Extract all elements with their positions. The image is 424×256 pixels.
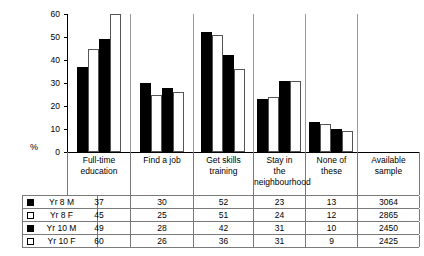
table-cell: 37 bbox=[68, 196, 131, 208]
table-cell: 23 bbox=[254, 196, 306, 208]
table-cell: 42 bbox=[194, 222, 254, 234]
column-header: Stay intheneighbourhood bbox=[254, 152, 306, 195]
group-separator bbox=[193, 14, 194, 152]
table-cell: 2425 bbox=[358, 235, 420, 247]
legend-swatch-filled-icon bbox=[27, 225, 34, 232]
bars-layer bbox=[68, 14, 419, 152]
column-header-line: the bbox=[254, 166, 305, 177]
column-header-line: sample bbox=[358, 166, 419, 177]
y-tick-label: 0 bbox=[34, 148, 60, 157]
table-cell: 9 bbox=[306, 235, 358, 247]
bar bbox=[257, 99, 268, 152]
bar bbox=[223, 55, 234, 152]
table-cell: 2865 bbox=[358, 209, 420, 221]
column-header-line: training bbox=[194, 166, 253, 177]
table-cell: 24 bbox=[254, 209, 306, 221]
bar bbox=[77, 67, 88, 152]
group-separator bbox=[357, 14, 358, 152]
legend-swatch-hollow-icon bbox=[27, 238, 34, 245]
bar bbox=[201, 32, 212, 152]
column-header-line: Find a job bbox=[131, 155, 193, 166]
bar bbox=[99, 39, 110, 152]
bar bbox=[342, 131, 353, 152]
table-cell: 52 bbox=[194, 196, 254, 208]
table-row: Yr 10 F6026363192425 bbox=[23, 235, 419, 248]
column-header: None of these bbox=[306, 152, 358, 195]
table-cell: 60 bbox=[68, 235, 131, 247]
bar bbox=[290, 81, 301, 152]
column-header: Get skillstraining bbox=[194, 152, 254, 195]
data-table: Yr 8 M37305223133064Yr 8 F45255124122865… bbox=[22, 195, 419, 248]
bar bbox=[234, 69, 245, 152]
column-header: Availablesample bbox=[358, 152, 420, 195]
bar bbox=[212, 35, 223, 152]
column-header-line: Stay in bbox=[254, 155, 305, 166]
category-header-row: Full-timeeducationFind a jobGet skillstr… bbox=[67, 152, 419, 195]
y-tick-label: 50 bbox=[34, 33, 60, 42]
y-tick-label: 10 bbox=[34, 125, 60, 134]
table-cell: 10 bbox=[306, 222, 358, 234]
group-separator bbox=[253, 14, 254, 152]
table-cell: 49 bbox=[68, 222, 131, 234]
table-row: Yr 10 M49284231102450 bbox=[23, 222, 419, 235]
column-header: Full-timeeducation bbox=[68, 152, 131, 195]
bar bbox=[151, 95, 162, 153]
table-row: Yr 8 F45255124122865 bbox=[23, 209, 419, 222]
table-cell: 12 bbox=[306, 209, 358, 221]
bar bbox=[110, 14, 121, 152]
table-cell: 36 bbox=[194, 235, 254, 247]
bar bbox=[162, 88, 173, 152]
table-cell: 25 bbox=[131, 209, 194, 221]
y-tick-label: 40 bbox=[34, 56, 60, 65]
column-header-line: None of these bbox=[306, 155, 357, 177]
plot-area: % 0102030405060 bbox=[0, 0, 424, 156]
table-cell: 3064 bbox=[358, 196, 420, 208]
table-cell: 51 bbox=[194, 209, 254, 221]
table-cell: 26 bbox=[131, 235, 194, 247]
table-cell: 31 bbox=[254, 235, 306, 247]
legend-swatch-filled-icon bbox=[27, 199, 34, 206]
table-cell: 30 bbox=[131, 196, 194, 208]
group-separator bbox=[130, 14, 131, 152]
bar bbox=[173, 92, 184, 152]
column-header-line: Available bbox=[358, 155, 419, 166]
group-separator bbox=[305, 14, 306, 152]
bar bbox=[279, 81, 290, 152]
bar bbox=[309, 122, 320, 152]
table-cell: 31 bbox=[254, 222, 306, 234]
column-header-line: Get skills bbox=[194, 155, 253, 166]
column-header-line: neighbourhood bbox=[254, 177, 305, 188]
chart-figure: % 0102030405060 Full-timeeducationFind a… bbox=[0, 0, 424, 256]
bar bbox=[140, 83, 151, 152]
column-header: Find a job bbox=[131, 152, 194, 195]
bar bbox=[268, 97, 279, 152]
bar bbox=[320, 124, 331, 152]
bar bbox=[331, 129, 342, 152]
table-cell: 45 bbox=[68, 209, 131, 221]
y-tick-label: 60 bbox=[34, 10, 60, 19]
bar bbox=[88, 49, 99, 153]
legend-swatch-hollow-icon bbox=[27, 212, 34, 219]
table-cell: 28 bbox=[131, 222, 194, 234]
y-tick-label: 30 bbox=[34, 79, 60, 88]
y-tick-label: 20 bbox=[34, 102, 60, 111]
column-header-line: Full-time bbox=[68, 155, 130, 166]
table-cell: 13 bbox=[306, 196, 358, 208]
table-cell: 2450 bbox=[358, 222, 420, 234]
column-header-line: education bbox=[68, 166, 130, 177]
table-row: Yr 8 M37305223133064 bbox=[23, 196, 419, 209]
